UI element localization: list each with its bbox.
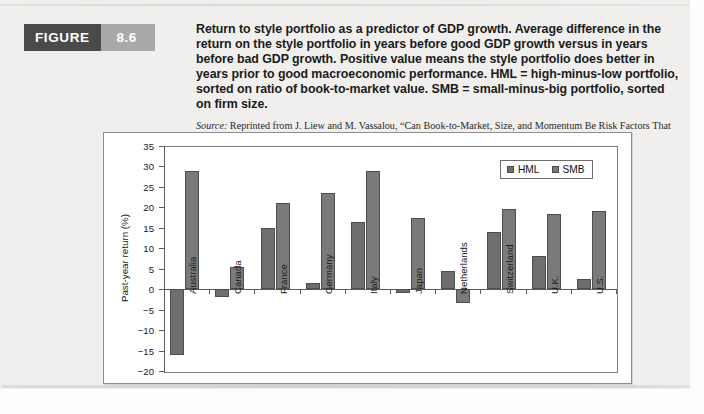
figure-caption-block: Return to style portfolio as a predictor…: [196, 22, 680, 144]
y-axis-tick-label: 10: [120, 243, 154, 254]
x-axis-tick: [390, 289, 391, 294]
bar-smb-italy: [366, 171, 380, 290]
bar-hml-canada: [215, 289, 229, 297]
y-axis-tick: [159, 248, 165, 249]
bar-hml-australia: [170, 289, 184, 354]
x-axis-tick: [300, 289, 301, 294]
x-axis-category-label: Netherlands: [458, 242, 469, 294]
y-axis-tick-label: −10: [120, 325, 154, 336]
page-right-edge: [690, 0, 704, 414]
y-axis-tick-label: −5: [120, 304, 154, 315]
y-axis-tick: [159, 187, 165, 188]
legend-entry-smb: SMB: [552, 164, 585, 175]
y-axis-tick-label: −15: [120, 345, 154, 356]
y-axis-tick-label: 5: [120, 263, 154, 274]
y-axis-tick: [159, 371, 165, 372]
bar-hml-italy: [351, 222, 365, 290]
x-axis-tick: [526, 289, 527, 294]
bar-hml-germany: [306, 283, 320, 289]
y-axis-tick-label: −20: [120, 366, 154, 377]
x-axis-tick: [435, 289, 436, 294]
figure-page: FIGURE 8.6 Return to style portfolio as …: [0, 0, 704, 414]
x-axis-category-label: Australia: [187, 257, 198, 294]
x-axis-category-label: France: [278, 264, 289, 294]
x-axis-category-label: Switzerland: [504, 245, 515, 295]
chart-panel: Past-year return (%) 35302520151050−5−10…: [103, 132, 632, 384]
x-axis-category-label: Germany: [323, 255, 334, 294]
x-axis-tick: [254, 289, 255, 294]
bar-hml-france: [261, 228, 275, 289]
y-axis-tick-label: 20: [120, 202, 154, 213]
page-bottom-edge: [0, 389, 704, 414]
y-axis-tick: [159, 207, 165, 208]
x-axis-tick: [345, 289, 346, 294]
source-prefix: Source:: [196, 120, 227, 131]
y-axis-tick: [159, 166, 165, 167]
y-axis-tick-label: 30: [120, 161, 154, 172]
y-axis-tick: [159, 269, 165, 270]
x-axis-category-label: Canada: [232, 261, 243, 295]
bar-hml-japan: [396, 289, 410, 293]
y-axis-line: [164, 146, 165, 371]
scan-line-bottom: [2, 385, 702, 388]
y-axis-tick: [159, 330, 165, 331]
scan-line-top: [0, 4, 704, 6]
figure-badge: FIGURE 8.6: [24, 24, 155, 51]
y-axis-tick: [159, 228, 165, 229]
y-axis-tick: [159, 351, 165, 352]
legend-label: HML: [518, 164, 540, 175]
legend-entry-hml: HML: [507, 164, 540, 175]
y-axis-tick-label: 0: [120, 284, 154, 295]
bar-hml-us: [577, 279, 591, 289]
y-axis-tick: [159, 289, 165, 290]
x-axis-category-label: U.S.: [594, 276, 605, 295]
bar-hml-netherlands: [441, 271, 455, 289]
x-axis-tick: [209, 289, 210, 294]
x-axis-tick: [480, 289, 481, 294]
figure-caption-text: Return to style portfolio as a predictor…: [196, 22, 680, 113]
x-axis-tick: [616, 289, 617, 294]
x-axis-category-label: U.K.: [549, 276, 560, 295]
y-axis-tick-label: 25: [120, 181, 154, 192]
legend-swatch-hml-icon: [507, 166, 514, 173]
bar-hml-uk: [532, 256, 546, 289]
chart-legend: HMLSMB: [500, 160, 593, 179]
x-axis-category-label: Japan: [413, 268, 424, 294]
figure-badge-label: FIGURE: [24, 24, 101, 51]
legend-swatch-smb-icon: [552, 166, 559, 173]
y-axis-tick-label: 35: [120, 141, 154, 152]
legend-label: SMB: [563, 164, 585, 175]
y-axis-tick-label: 15: [120, 222, 154, 233]
bar-hml-switzerland: [487, 232, 501, 289]
y-axis-tick: [159, 146, 165, 147]
x-axis-category-label: Italy: [368, 277, 379, 295]
x-axis-tick: [571, 289, 572, 294]
y-axis-tick: [159, 310, 165, 311]
figure-badge-number: 8.6: [101, 24, 155, 51]
